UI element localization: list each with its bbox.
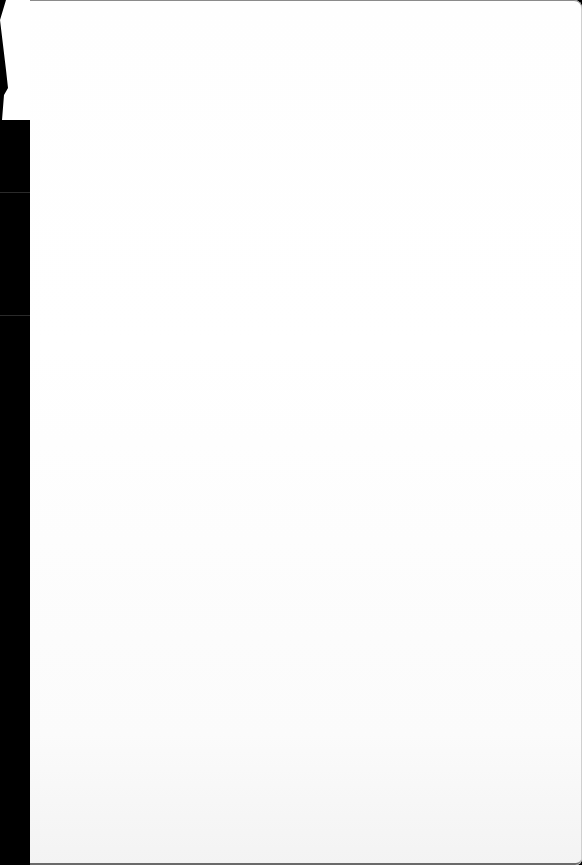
- blank-page: [30, 0, 582, 865]
- scan-background: [0, 0, 582, 865]
- background-edge-line: [0, 315, 30, 316]
- background-edge-line: [0, 192, 30, 193]
- page-content: [30, 0, 582, 865]
